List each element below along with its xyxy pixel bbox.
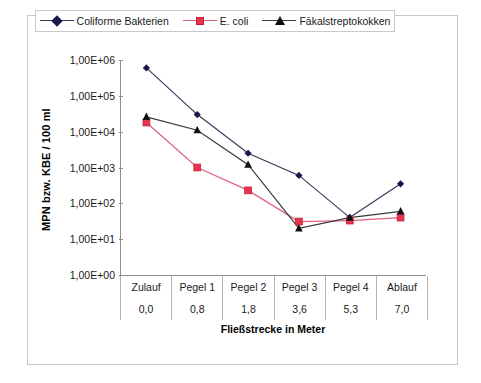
x-axis-category-column: Pegel 21,8	[223, 276, 274, 320]
y-axis-tick-label: 1,00E+05	[70, 90, 115, 102]
y-axis-title: MPN bzw. KBE / 100 ml	[35, 75, 57, 265]
legend-label: E. coli	[220, 16, 249, 27]
data-point-square[interactable]	[296, 218, 303, 225]
y-axis-tick-label: 1,00E+03	[70, 162, 115, 174]
data-point-square[interactable]	[143, 119, 150, 126]
x-axis-category-column: Zulauf0,0	[121, 276, 172, 320]
x-axis-distance-label: 5,3	[326, 298, 376, 320]
x-axis-category-label: Pegel 1	[172, 276, 222, 298]
y-axis-tick-labels: 1,00E+061,00E+051,00E+041,00E+031,00E+02…	[57, 60, 119, 275]
x-axis-category-label: Pegel 2	[223, 276, 273, 298]
legend-label: Coliforme Bakterien	[77, 16, 169, 27]
y-axis-tick-label: 1,00E+04	[70, 126, 115, 138]
x-axis-category-column: Ablauf7,0	[377, 276, 427, 320]
y-axis-tick-label: 1,00E+02	[70, 197, 115, 209]
legend-key-triangle	[262, 15, 296, 27]
series-line-2	[146, 123, 400, 222]
y-axis-tick-label: 1,00E+01	[70, 233, 115, 245]
legend-item-1[interactable]: Coliforme Bakterien	[40, 15, 169, 27]
x-axis-category-label: Pegel 3	[275, 276, 325, 298]
x-axis-distance-label: 7,0	[377, 298, 427, 320]
data-point-square[interactable]	[194, 164, 201, 171]
x-axis-category-label: Ablauf	[377, 276, 427, 298]
data-point-triangle[interactable]	[244, 160, 252, 167]
data-point-triangle[interactable]	[143, 113, 151, 120]
legend-key-diamond	[40, 15, 74, 27]
x-axis-distance-label: 0,0	[121, 298, 171, 320]
series-line-1	[146, 68, 400, 218]
x-axis-title: Fließstrecke in Meter	[120, 323, 426, 335]
x-axis-category-table: Zulauf0,0Pegel 10,8Pegel 21,8Pegel 33,6P…	[120, 276, 428, 320]
data-point-diamond[interactable]	[397, 180, 404, 187]
x-axis-category-label: Zulauf	[121, 276, 171, 298]
chart-figure: MPN bzw. KBE / 100 ml 1,00E+061,00E+051,…	[27, 15, 458, 365]
legend-key-square	[183, 15, 217, 27]
x-axis-category-column: Pegel 33,6	[275, 276, 326, 320]
legend-marker-square-icon	[196, 17, 204, 25]
plot-area	[120, 60, 426, 276]
series-line-3	[146, 117, 400, 229]
legend-label: Fäkalstreptokokken	[299, 16, 390, 27]
x-axis-category-label: Pegel 4	[326, 276, 376, 298]
legend-marker-triangle-icon	[275, 16, 285, 25]
x-axis-distance-label: 1,8	[223, 298, 273, 320]
data-point-square[interactable]	[397, 214, 404, 221]
y-axis-tick-label: 1,00E+00	[70, 269, 115, 281]
x-axis-distance-label: 3,6	[275, 298, 325, 320]
x-axis-distance-label: 0,8	[172, 298, 222, 320]
x-axis-category-column: Pegel 10,8	[172, 276, 223, 320]
legend-item-2[interactable]: E. coli	[183, 15, 249, 27]
chart-series-svg	[121, 60, 426, 275]
data-point-square[interactable]	[245, 187, 252, 194]
y-axis-tick-label: 1,00E+06	[70, 54, 115, 66]
chart-legend: Coliforme BakterienE. coliFäkalstreptoko…	[35, 10, 395, 32]
data-point-triangle[interactable]	[397, 207, 405, 214]
x-axis-category-column: Pegel 45,3	[326, 276, 377, 320]
legend-marker-diamond-icon	[51, 15, 62, 26]
legend-item-3[interactable]: Fäkalstreptokokken	[262, 15, 390, 27]
